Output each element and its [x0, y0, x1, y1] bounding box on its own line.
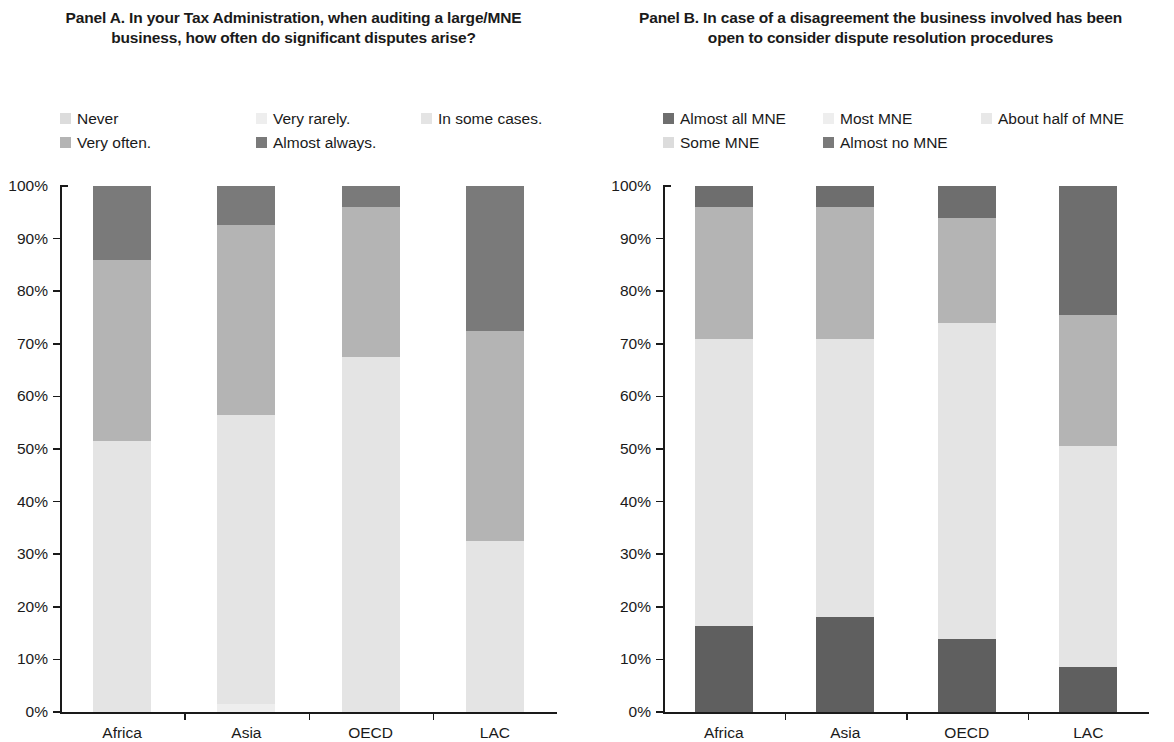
panel-b-legend: Almost all MNE Most MNE About half of MN…: [587, 106, 1174, 154]
legend-item-almost-all-mne[interactable]: Almost all MNE: [663, 110, 823, 127]
y-axis-label: 40%: [620, 493, 651, 511]
y-axis-tick: [60, 185, 68, 187]
bar-segment: [695, 207, 753, 339]
bar-segment: [695, 626, 753, 712]
legend-swatch-about-half-of-mne: [981, 113, 992, 124]
y-axis-tick: [53, 448, 60, 450]
legend-swatch-almost-no-mne: [823, 137, 834, 148]
bar-segment: [816, 617, 874, 712]
panel-a: Panel A. In your Tax Administration, whe…: [0, 0, 587, 737]
y-axis-tick: [656, 396, 663, 398]
legend-label-almost-no-mne: Almost no MNE: [840, 134, 948, 151]
bar-segment: [342, 357, 400, 712]
bar-lac[interactable]: [1059, 186, 1117, 712]
legend-swatch-most-mne: [823, 113, 834, 124]
panel-a-title: Panel A. In your Tax Administration, whe…: [0, 8, 587, 48]
y-axis-tick: [656, 659, 663, 661]
y-axis-tick: [53, 238, 60, 240]
bar-oecd[interactable]: [938, 186, 996, 712]
bar-segment: [217, 186, 275, 225]
x-axis-tick: [1028, 712, 1030, 720]
bar-segment: [93, 441, 151, 712]
legend-swatch-almost-always: [256, 137, 267, 148]
legend-item-most-mne[interactable]: Most MNE: [823, 110, 981, 127]
legend-label-almost-all-mne: Almost all MNE: [680, 110, 786, 127]
bar-segment: [342, 186, 400, 207]
y-axis-tick: [53, 606, 60, 608]
legend-item-very-rarely[interactable]: Very rarely.: [256, 110, 421, 127]
y-axis-label: 80%: [620, 282, 651, 300]
y-axis-label: 60%: [17, 387, 48, 405]
legend-item-very-often[interactable]: Very often.: [60, 134, 256, 151]
y-axis-tick: [53, 343, 60, 345]
bar-oecd[interactable]: [342, 186, 400, 712]
legend-row: Almost all MNE Most MNE About half of MN…: [663, 106, 1168, 130]
y-axis-label: 0%: [629, 703, 651, 721]
legend-item-some-mne[interactable]: Some MNE: [663, 134, 823, 151]
x-axis-label-oecd: OECD: [944, 724, 989, 742]
bar-segment: [938, 218, 996, 323]
y-axis-label: 70%: [620, 335, 651, 353]
legend-swatch-in-some-cases: [421, 113, 432, 124]
bar-segment: [816, 207, 874, 339]
y-axis-tick: [663, 185, 671, 187]
bar-segment: [1059, 186, 1117, 315]
y-axis-line: [60, 186, 62, 712]
bar-segment: [816, 339, 874, 618]
y-axis-tick: [656, 606, 663, 608]
panel-b-title: Panel B. In case of a disagreement the b…: [587, 8, 1174, 48]
bar-asia[interactable]: [217, 186, 275, 712]
y-axis-label: 70%: [17, 335, 48, 353]
legend-label-some-mne: Some MNE: [680, 134, 759, 151]
x-axis-tick: [906, 712, 908, 720]
bar-africa[interactable]: [695, 186, 753, 712]
bar-segment: [938, 639, 996, 712]
legend-item-almost-no-mne[interactable]: Almost no MNE: [823, 134, 981, 151]
y-axis-tick: [53, 553, 60, 555]
legend-item-almost-always[interactable]: Almost always.: [256, 134, 421, 151]
y-axis-tick: [656, 238, 663, 240]
bar-segment: [938, 323, 996, 640]
bar-segment: [342, 207, 400, 357]
legend-label-very-rarely: Very rarely.: [273, 110, 350, 127]
panel-b: Panel B. In case of a disagreement the b…: [587, 0, 1174, 737]
legend-row: Very often. Almost always.: [60, 130, 565, 154]
y-axis-label: 10%: [17, 650, 48, 668]
y-axis-label: 90%: [17, 230, 48, 248]
legend-item-about-half-of-mne[interactable]: About half of MNE: [981, 110, 1124, 127]
legend-label-most-mne: Most MNE: [840, 110, 912, 127]
y-axis-tick: [53, 290, 60, 292]
bar-segment: [466, 186, 524, 331]
x-axis-tick: [785, 712, 787, 720]
y-axis-tick: [53, 501, 60, 503]
bar-segment: [1059, 315, 1117, 447]
legend-swatch-almost-all-mne: [663, 113, 674, 124]
x-axis-label-africa: Africa: [102, 724, 142, 742]
y-axis-label: 10%: [620, 650, 651, 668]
bar-segment: [938, 186, 996, 218]
x-axis-tick: [433, 712, 435, 720]
legend-label-almost-always: Almost always.: [273, 134, 376, 151]
x-axis-tick: [184, 712, 186, 720]
y-axis-label: 90%: [620, 230, 651, 248]
bar-segment: [695, 186, 753, 207]
legend-label-never: Never: [77, 110, 118, 127]
bar-segment: [466, 541, 524, 712]
y-axis-label: 50%: [620, 440, 651, 458]
bar-asia[interactable]: [816, 186, 874, 712]
bar-lac[interactable]: [466, 186, 524, 712]
y-axis-label: 0%: [26, 703, 48, 721]
legend-item-in-some-cases[interactable]: In some cases.: [421, 110, 542, 127]
x-axis-label-lac: LAC: [1073, 724, 1103, 742]
y-axis-label: 100%: [8, 177, 48, 195]
bar-segment: [217, 225, 275, 414]
legend-item-never[interactable]: Never: [60, 110, 256, 127]
bar-africa[interactable]: [93, 186, 151, 712]
bar-segment: [466, 331, 524, 541]
x-axis-label-lac: LAC: [480, 724, 510, 742]
y-axis-label: 20%: [17, 598, 48, 616]
y-axis-tick: [53, 711, 60, 713]
legend-label-very-often: Very often.: [77, 134, 151, 151]
legend-swatch-some-mne: [663, 137, 674, 148]
bar-segment: [217, 704, 275, 712]
